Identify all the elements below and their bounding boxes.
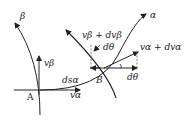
dtheta-bottom-label: dθ	[127, 72, 139, 82]
dtheta-arc	[120, 64, 121, 68]
v-alpha-a-label: vα	[70, 90, 81, 100]
slip-line-diagram: β α A B vβ vα dsα vβ + dvβ vα + dvα dθ d…	[0, 0, 186, 126]
v-beta-a-label: vβ	[44, 58, 54, 68]
ds-alpha-label: dsα	[62, 75, 78, 85]
dtheta-arrow-top	[94, 45, 100, 51]
dtheta-top-label: dθ	[103, 42, 115, 52]
v-beta-b-label: vβ + dvβ	[82, 30, 122, 40]
point-b-label: B	[95, 75, 103, 85]
alpha-label: α	[150, 10, 156, 20]
point-a-label: A	[26, 92, 34, 102]
beta-label: β	[19, 11, 25, 21]
v-alpha-b-label: vα + dvα	[140, 42, 181, 52]
